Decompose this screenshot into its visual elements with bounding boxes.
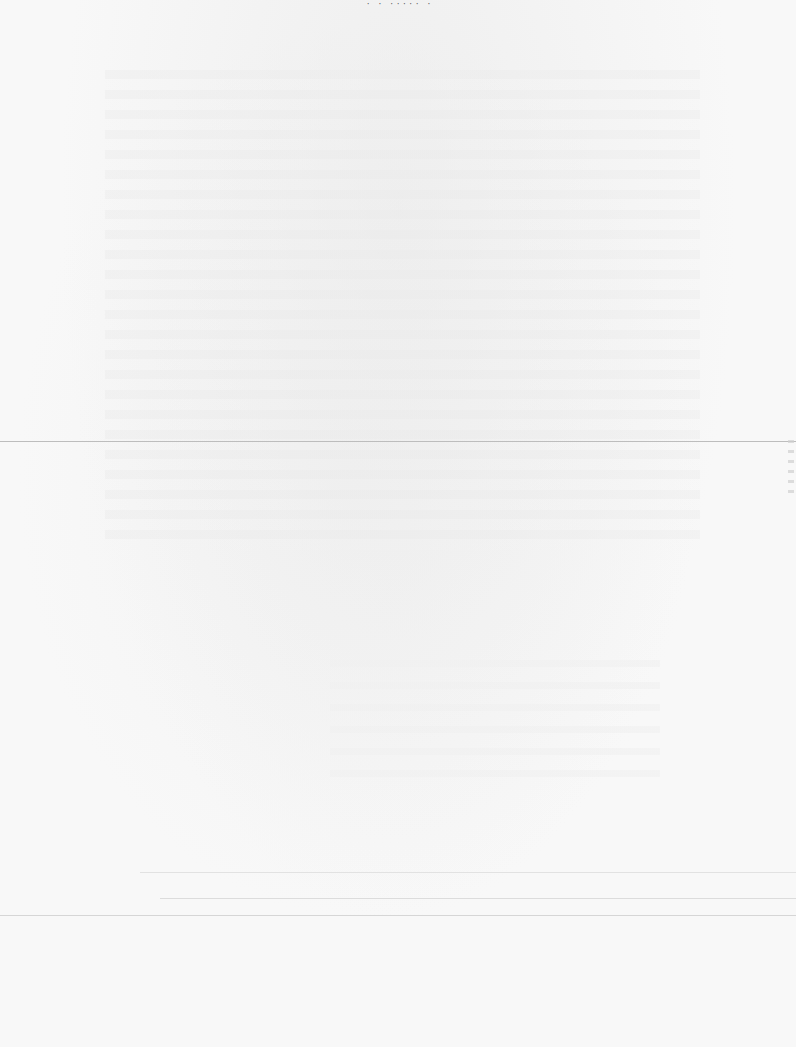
margin-marks <box>788 440 794 500</box>
horizontal-rule <box>0 915 796 916</box>
horizontal-rule <box>140 872 796 873</box>
horizontal-rule <box>0 441 796 442</box>
horizontal-rule <box>160 898 796 899</box>
show-through-text-block-lower <box>330 660 660 790</box>
document-page: · · ····· · <box>0 0 796 1047</box>
clipped-header-text: · · ····· · <box>300 0 500 8</box>
show-through-text-block <box>105 70 700 550</box>
